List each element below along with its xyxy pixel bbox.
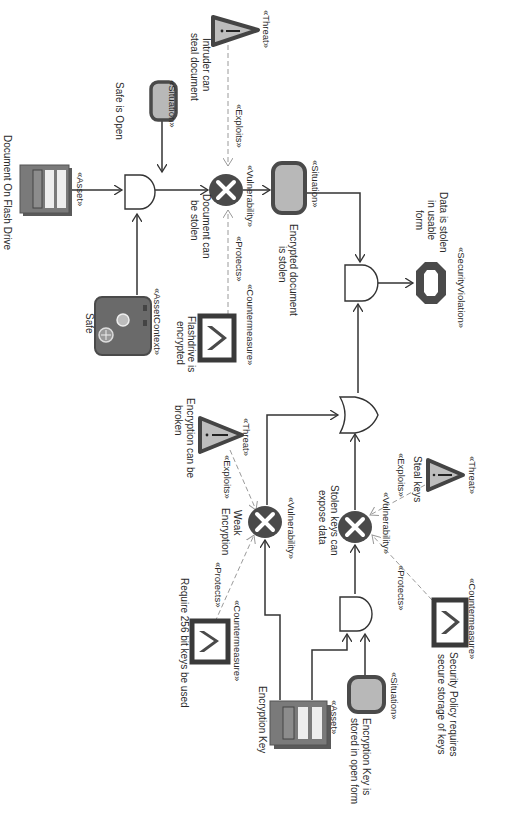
asset-encryption-key-stereotype: «Asset»: [329, 700, 340, 734]
asset-document-label: Document On Flash Drive: [2, 135, 13, 250]
edge-label-protects-1: «Protects»: [234, 236, 245, 281]
situation-encrypted-stolen-stereotype: «Situation»: [310, 160, 321, 208]
threat-encryption-broken-stereotype: «Threat»: [241, 418, 252, 456]
vuln-weak-encryption-stereotype: «Vulnerability»: [286, 497, 297, 559]
countermeasure-flashdrive-label-1: Flashdrive is: [186, 316, 197, 372]
countermeasure-256-stereotype: «Countermeasure»: [232, 600, 243, 681]
edge-label-exploits-2: «Exploits»: [396, 453, 407, 497]
threat-encryption-broken-label-2: broken: [173, 405, 184, 436]
vuln-document-stolen-icon[interactable]: [209, 174, 243, 206]
situation-key-open-label-2: stored in open form: [349, 718, 360, 804]
security-violation-icon[interactable]: [416, 262, 446, 304]
countermeasure-policy-stereotype: «Countermeasure»: [467, 578, 478, 659]
threat-steal-keys-label: Steal keys: [412, 456, 423, 502]
threat-intruder-label-2: steal document: [189, 33, 200, 101]
vuln-weak-encryption-icon[interactable]: [248, 506, 282, 538]
countermeasure-flashdrive-icon[interactable]: [200, 316, 234, 360]
situation-key-open-icon[interactable]: [349, 677, 384, 712]
asset-context-safe-stereotype: «AssetContext»: [152, 288, 163, 355]
countermeasure-policy-label-1: Security Policy requires: [448, 652, 459, 756]
and-gate-2[interactable]: [345, 265, 378, 301]
situation-encrypted-stolen-label-1: Encrypted document: [288, 224, 299, 316]
threat-steal-keys-icon[interactable]: [428, 460, 463, 490]
countermeasure-256-icon[interactable]: [192, 621, 228, 662]
countermeasure-flashdrive-stereotype: «Countermeasure»: [245, 284, 256, 365]
situation-encrypted-stolen-label-2: is stolen: [277, 246, 288, 283]
threat-intruder-stereotype: «Threat»: [261, 10, 272, 48]
asset-context-safe-icon[interactable]: [95, 297, 151, 355]
vuln-stolen-keys-icon[interactable]: [338, 511, 372, 543]
situation-key-open-label-1: Encryption Key is: [361, 718, 372, 795]
edge-key-to-weak: [265, 540, 280, 700]
countermeasure-policy-label-2: secure storage of keys: [436, 654, 447, 755]
countermeasure-256-label: Require 256 bit keys be used: [179, 578, 190, 708]
and-gate-3[interactable]: [340, 597, 372, 631]
security-violation-label-3: form: [414, 210, 425, 230]
situation-encrypted-stolen-icon[interactable]: [273, 163, 305, 213]
vuln-document-stolen-stereotype: «Vulnerability»: [245, 165, 256, 227]
edge-label-protects-3: «Protects»: [213, 562, 224, 607]
security-violation-label-1: Data is stolen: [438, 192, 449, 253]
vuln-document-stolen-label-2: be stolen: [189, 200, 200, 241]
threat-encryption-broken-label-1: Encryption can be: [185, 398, 196, 478]
edge-label-exploits-1: «Exploits»: [234, 104, 245, 148]
vuln-stolen-keys-stereotype: «Vulnerability»: [381, 492, 392, 554]
situation-safe-open-label: Safe is Open: [114, 82, 125, 140]
threat-steal-keys-stereotype: «Threat»: [467, 456, 478, 494]
situation-safe-open-stereotype: «Situation»: [167, 80, 178, 128]
security-violation-label-2: in usable: [426, 200, 437, 240]
asset-context-safe-label: Safe: [84, 313, 95, 334]
vuln-stolen-keys-label-1: Stolen keys can: [329, 485, 340, 556]
attack-tree-diagram: [0, 0, 510, 813]
asset-document-icon[interactable]: [20, 165, 72, 216]
asset-encryption-key-label: Encryption Key: [257, 686, 268, 753]
edge-exploits-broken: [230, 450, 256, 510]
asset-document-stereotype: «Asset»: [75, 172, 86, 206]
threat-encryption-broken-icon[interactable]: [200, 418, 242, 452]
threat-intruder-label-1: Intruder can: [201, 38, 212, 91]
threat-intruder-icon[interactable]: [213, 17, 258, 45]
edge-label-protects-2: «Protects»: [396, 565, 407, 610]
vuln-document-stolen-label-1: Document can: [201, 194, 212, 258]
situation-key-open-stereotype: «Situation»: [389, 672, 400, 720]
and-gate-1[interactable]: [125, 175, 155, 209]
vuln-stolen-keys-label-2: expose data: [317, 490, 328, 545]
vuln-weak-encryption-label-2: Encryption: [220, 508, 231, 555]
edge-label-exploits-3: «Exploits»: [222, 455, 233, 499]
countermeasure-policy-icon[interactable]: [434, 600, 466, 645]
or-gate[interactable]: [340, 397, 378, 433]
vuln-weak-encryption-label-1: Weak: [232, 510, 243, 535]
asset-encryption-key-icon[interactable]: [270, 701, 331, 749]
security-violation-stereotype: «SecurityViolation»: [456, 247, 467, 328]
countermeasure-flashdrive-label-2: encrypted: [175, 321, 186, 365]
edge-key-to-and3: [312, 634, 347, 700]
